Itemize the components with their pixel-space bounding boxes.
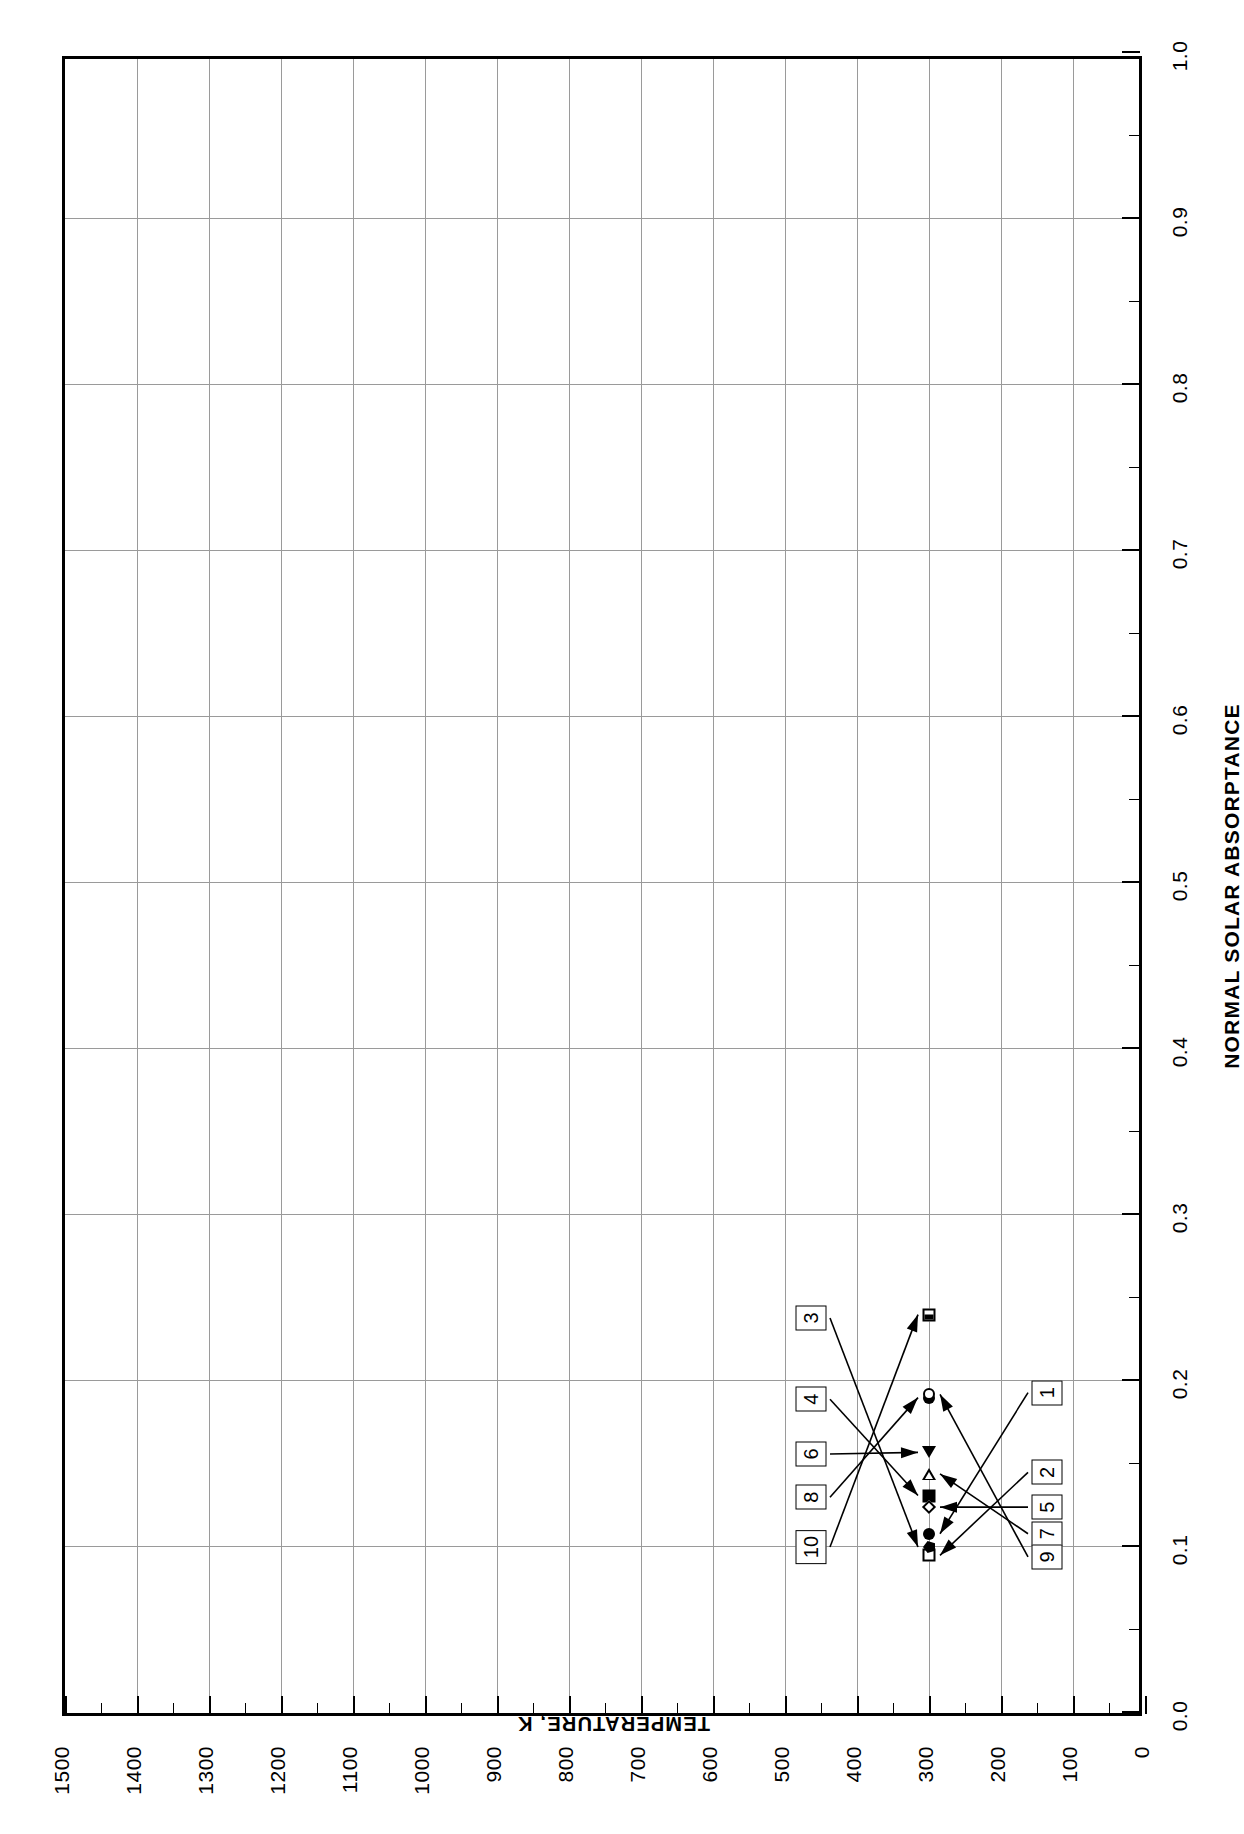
y-tick-label: 1300: [194, 1746, 218, 1834]
y-tick-minor: [1109, 1703, 1110, 1714]
x-tick-label: 0.2: [1168, 1369, 1192, 1400]
y-tick-label: 1500: [50, 1746, 74, 1834]
data-point-marker-10: [923, 1308, 936, 1321]
x-tick-label: 0.6: [1168, 705, 1192, 736]
gridline-vertical: [65, 1048, 1139, 1049]
y-tick-label: 200: [986, 1746, 1010, 1834]
gridline-horizontal: [641, 59, 642, 1713]
y-tick-minor: [749, 1703, 750, 1714]
x-tick: [1122, 715, 1140, 717]
gridline-vertical: [65, 1546, 1139, 1547]
gridline-horizontal: [857, 59, 858, 1713]
figure-canvas: FIGURE 15 NORMAL SOLAR ABSORPTANCE OF AL…: [0, 0, 1244, 1834]
y-tick: [857, 1696, 859, 1714]
y-tick: [785, 1696, 787, 1714]
y-tick: [1145, 1696, 1147, 1714]
x-tick-minor: [1129, 1297, 1140, 1298]
data-point-marker-7: [922, 1468, 936, 1480]
data-point-marker-6: [922, 1446, 936, 1458]
x-tick-label: 0.5: [1168, 871, 1192, 902]
gridline-horizontal: [785, 59, 786, 1713]
x-tick-minor: [1129, 633, 1140, 634]
y-tick-label: 600: [698, 1746, 722, 1834]
y-tick-label: 400: [842, 1746, 866, 1834]
y-tick-label: 900: [482, 1746, 506, 1834]
y-tick-label: 1000: [410, 1746, 434, 1834]
gridline-horizontal: [137, 59, 138, 1713]
callout-box-8: 8: [796, 1485, 827, 1510]
x-tick-minor: [1129, 799, 1140, 800]
y-axis-title: TEMPERATURE, K: [517, 1712, 710, 1735]
y-tick: [137, 1696, 139, 1714]
x-tick-minor: [1129, 1629, 1140, 1630]
y-tick-label: 300: [914, 1746, 938, 1834]
gridline-horizontal: [713, 59, 714, 1713]
x-tick-label: 0.4: [1168, 1037, 1192, 1068]
x-tick: [1122, 1047, 1140, 1049]
data-point-marker-5: [922, 1500, 936, 1514]
callout-box-5: 5: [1032, 1495, 1063, 1520]
gridline-vertical: [65, 882, 1139, 883]
x-tick: [1122, 1213, 1140, 1215]
y-tick-minor: [245, 1703, 246, 1714]
gridline-horizontal: [1001, 59, 1002, 1713]
callout-leader-lines: [65, 53, 1145, 1713]
x-tick-minor: [1129, 135, 1140, 136]
gridline-vertical: [65, 550, 1139, 551]
gridline-horizontal: [569, 59, 570, 1713]
y-tick-label: 100: [1058, 1746, 1082, 1834]
plot-area: 12345678910: [62, 56, 1142, 1716]
y-tick: [281, 1696, 283, 1714]
x-tick-label: 0.9: [1168, 207, 1192, 238]
gridline-horizontal: [281, 59, 282, 1713]
x-tick-label: 0.8: [1168, 373, 1192, 404]
y-tick-minor: [965, 1703, 966, 1714]
gridline-horizontal: [929, 59, 930, 1713]
x-tick-minor: [1129, 965, 1140, 966]
y-tick-minor: [461, 1703, 462, 1714]
callout-box-3: 3: [796, 1305, 827, 1330]
gridline-horizontal: [353, 59, 354, 1713]
x-tick: [1122, 51, 1140, 53]
y-tick: [425, 1696, 427, 1714]
gridline-vertical: [65, 1214, 1139, 1215]
x-tick: [1122, 881, 1140, 883]
gridline-horizontal: [209, 59, 210, 1713]
y-tick-label: 1200: [266, 1746, 290, 1834]
x-tick-label: 0.3: [1168, 1203, 1192, 1234]
figure-page: FIGURE 15 NORMAL SOLAR ABSORPTANCE OF AL…: [0, 0, 1244, 1834]
y-tick-label: 800: [554, 1746, 578, 1834]
gridline-horizontal: [1073, 59, 1074, 1713]
y-tick-label: 1100: [338, 1746, 362, 1834]
x-tick: [1122, 1711, 1140, 1713]
callout-box-7: 7: [1032, 1521, 1063, 1546]
x-tick-minor: [1129, 301, 1140, 302]
y-tick: [1073, 1696, 1075, 1714]
x-tick-minor: [1129, 467, 1140, 468]
x-tick-label: 0.1: [1168, 1535, 1192, 1566]
callout-box-9: 9: [1032, 1544, 1063, 1569]
y-tick-minor: [317, 1703, 318, 1714]
y-tick: [929, 1696, 931, 1714]
gridline-horizontal: [425, 59, 426, 1713]
x-axis-title: NORMAL SOLAR ABSORPTANCE: [1220, 703, 1244, 1069]
x-tick: [1122, 383, 1140, 385]
callout-box-10: 10: [796, 1530, 827, 1564]
data-markers: [65, 59, 79, 1713]
callout-box-6: 6: [796, 1442, 827, 1467]
y-tick-minor: [173, 1703, 174, 1714]
y-tick-minor: [1037, 1703, 1038, 1714]
y-tick-label: 500: [770, 1746, 794, 1834]
y-tick: [713, 1696, 715, 1714]
callout-box-4: 4: [796, 1387, 827, 1412]
gridline-vertical: [65, 1380, 1139, 1381]
callout-box-1: 1: [1032, 1380, 1063, 1405]
gridline-vertical: [65, 384, 1139, 385]
y-tick-label: 0: [1130, 1746, 1154, 1834]
x-tick: [1122, 549, 1140, 551]
x-tick: [1122, 217, 1140, 219]
data-point-marker-1: [923, 1528, 935, 1540]
y-tick-label: 700: [626, 1746, 650, 1834]
x-tick: [1122, 1379, 1140, 1381]
y-tick-minor: [821, 1703, 822, 1714]
